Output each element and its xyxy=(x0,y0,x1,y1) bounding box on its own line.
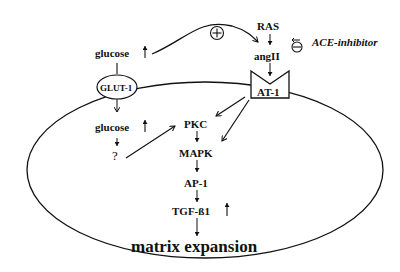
label-angii: angII xyxy=(254,50,280,62)
label-pkc: PKC xyxy=(184,118,207,130)
label-ras: RAS xyxy=(257,20,279,32)
label-matrix-expansion: matrix expansion xyxy=(131,238,257,256)
label-tgfb1: TGF-ß1 xyxy=(172,205,210,217)
arrow-unknown-pkc xyxy=(126,126,175,158)
label-at1: AT-1 xyxy=(257,86,280,98)
minus-icon xyxy=(292,38,302,52)
label-mapk: MAPK xyxy=(179,147,213,159)
label-ace-inhibitor: ACE-inhibitor xyxy=(312,36,377,48)
label-glucose-outside: glucose xyxy=(95,47,129,59)
cell-membrane xyxy=(27,82,383,258)
arrow-at1-mapk xyxy=(222,100,249,141)
label-ap1: AP-1 xyxy=(184,177,208,189)
stimulation-arrow xyxy=(152,24,258,54)
label-glucose-inside: glucose xyxy=(95,121,129,133)
label-unknown: ? xyxy=(112,150,118,162)
plus-icon xyxy=(211,27,224,40)
label-glut1: GLUT-1 xyxy=(100,82,132,94)
